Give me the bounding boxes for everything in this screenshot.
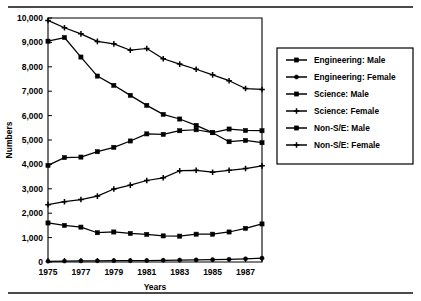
data-point — [161, 112, 165, 116]
data-point — [160, 175, 166, 181]
data-point — [243, 86, 249, 92]
x-tick-label: 1979 — [104, 267, 123, 277]
data-point — [243, 166, 249, 172]
data-point — [294, 58, 298, 62]
data-point — [62, 155, 66, 159]
top-horizontal-rule — [8, 6, 413, 8]
figure-container: 01,0002,0003,0004,0005,0006,0007,0008,00… — [0, 0, 421, 301]
data-point — [211, 232, 215, 236]
data-point — [79, 155, 83, 159]
data-point — [128, 231, 132, 235]
series-science-male — [46, 127, 264, 168]
legend-label: Science: Female — [314, 106, 379, 116]
y-tick-label: 8,000 — [22, 62, 44, 72]
y-tick-label: 2,000 — [22, 208, 44, 218]
data-point — [259, 87, 265, 93]
y-tick-label: 3,000 — [22, 184, 44, 194]
data-point — [227, 257, 231, 261]
data-point — [46, 39, 50, 43]
data-point — [62, 259, 66, 263]
line-chart: 01,0002,0003,0004,0005,0006,0007,0008,00… — [0, 10, 421, 290]
y-tick-label: 0 — [38, 257, 43, 267]
data-point — [144, 178, 150, 184]
data-point — [78, 31, 84, 37]
data-point — [62, 25, 68, 31]
x-tick-label: 1975 — [39, 267, 58, 277]
legend-label: Science: Male — [314, 89, 369, 99]
legend-label: Engineering: Female — [314, 72, 396, 82]
x-tick-label: 1977 — [71, 267, 90, 277]
data-point — [294, 126, 298, 130]
data-point — [178, 234, 182, 238]
data-point — [95, 39, 101, 45]
y-tick-label: 7,000 — [22, 86, 44, 96]
data-point — [260, 129, 264, 133]
data-point — [210, 169, 216, 175]
data-point — [111, 41, 117, 47]
data-point — [144, 46, 150, 52]
data-point — [226, 167, 232, 173]
data-point — [128, 139, 132, 143]
data-point — [227, 230, 231, 234]
data-point — [194, 128, 198, 132]
data-point — [211, 131, 215, 135]
series-line — [48, 129, 262, 165]
x-tick-label: 1981 — [137, 267, 156, 277]
data-point — [95, 259, 99, 263]
y-axis-ticks — [48, 18, 52, 262]
data-point — [260, 141, 264, 145]
data-point — [145, 103, 149, 107]
x-tick-label: 1983 — [170, 267, 189, 277]
data-point — [145, 258, 149, 262]
data-point — [128, 47, 134, 53]
data-point — [260, 222, 264, 226]
data-point — [178, 129, 182, 133]
data-point — [79, 55, 83, 59]
data-point — [294, 75, 298, 79]
data-point — [294, 92, 298, 96]
y-tick-label: 9,000 — [22, 37, 44, 47]
data-point — [226, 78, 232, 84]
data-point — [111, 186, 117, 192]
data-point — [62, 35, 66, 39]
data-point — [95, 193, 101, 199]
x-axis-tick-labels: 1975197719791981198319851987 — [39, 267, 256, 277]
data-point — [79, 259, 83, 263]
data-point — [112, 259, 116, 263]
data-point — [227, 140, 231, 144]
data-point — [46, 163, 50, 167]
data-point — [46, 259, 50, 263]
data-point — [95, 74, 99, 78]
data-point — [78, 197, 84, 203]
data-point — [128, 259, 132, 263]
chart-canvas: 01,0002,0003,0004,0005,0006,0007,0008,00… — [0, 10, 421, 290]
data-point — [46, 221, 50, 225]
data-point — [145, 132, 149, 136]
y-tick-label: 1,000 — [22, 233, 44, 243]
data-point — [243, 138, 247, 142]
data-point — [243, 257, 247, 261]
x-tick-label: 1985 — [203, 267, 222, 277]
data-point — [95, 150, 99, 154]
series-engineering-male — [46, 221, 264, 238]
data-point — [193, 167, 199, 173]
legend-label: Non-S/E: Male — [314, 123, 370, 133]
x-tick-label: 1987 — [236, 267, 255, 277]
series-science-female — [45, 163, 265, 207]
legend-label: Non-S/E: Female — [314, 140, 380, 150]
data-point — [112, 145, 116, 149]
legend-label: Engineering: Male — [314, 55, 386, 65]
data-series-group — [45, 18, 265, 264]
data-point — [211, 258, 215, 262]
data-point — [178, 117, 182, 121]
data-point — [160, 56, 166, 62]
data-point — [161, 258, 165, 262]
data-point — [177, 168, 183, 174]
data-point — [260, 256, 264, 260]
data-point — [161, 132, 165, 136]
data-point — [259, 163, 265, 169]
y-axis-tick-labels: 01,0002,0003,0004,0005,0006,0007,0008,00… — [17, 13, 43, 267]
data-point — [95, 231, 99, 235]
data-point — [194, 232, 198, 236]
data-point — [62, 199, 68, 205]
